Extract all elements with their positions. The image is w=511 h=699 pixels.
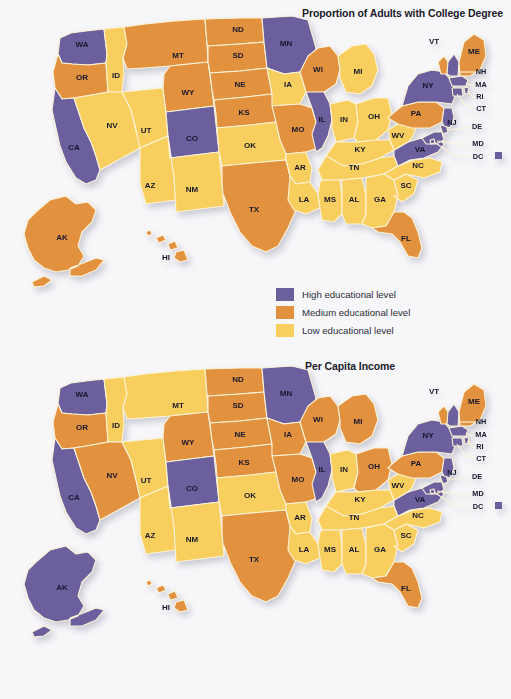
state-label-ca: CA (68, 143, 80, 152)
state-label-wi: WI (313, 415, 323, 424)
state-label-nv: NV (106, 471, 118, 480)
state-label-wy: WY (182, 438, 196, 447)
state-label-tx: TX (249, 555, 260, 564)
state-label-in: IN (340, 115, 348, 124)
state-shape-wy[interactable] (163, 412, 214, 462)
state-label-ct: CT (476, 454, 486, 463)
state-label-ma: MA (475, 430, 487, 439)
legend-swatch-medium (276, 306, 294, 319)
state-label-ok: OK (244, 491, 256, 500)
state-label-or: OR (76, 423, 88, 432)
state-label-oh: OH (368, 462, 380, 471)
state-label-ri: RI (476, 92, 483, 101)
us-choropleth-map-per-capita-income[interactable]: WAORCAIDNVUTAZMTWYCONMNDSDNEKSOKTXMNIAMO… (0, 350, 511, 699)
state-shape-dc[interactable] (430, 489, 435, 494)
state-shape-wy[interactable] (163, 62, 214, 112)
state-label-id: ID (112, 71, 120, 80)
state-shape-co[interactable] (166, 106, 219, 158)
state-label-wy: WY (182, 88, 196, 97)
us-choropleth-map-college-degree[interactable]: WAORCAIDNVUTAZMTWYCONMNDSDNEKSOKTXMNIAMO… (0, 0, 511, 349)
state-label-ks: KS (238, 458, 250, 467)
state-label-de: DE (472, 472, 482, 481)
state-shape-nh[interactable] (447, 54, 459, 76)
state-label-nc: NC (412, 511, 424, 520)
state-label-ct: CT (476, 104, 486, 113)
state-label-ga: GA (374, 195, 386, 204)
state-label-nj: NJ (447, 468, 456, 477)
legend-row-medium[interactable]: Medium educational level (276, 304, 410, 321)
state-label-tn: TN (349, 163, 360, 172)
state-label-mn: MN (280, 389, 293, 398)
state-shape-ma[interactable] (449, 76, 468, 86)
dc-swatch (495, 502, 502, 509)
state-label-az: AZ (145, 531, 156, 540)
state-label-ut: UT (141, 126, 152, 135)
state-shape-dc[interactable] (430, 139, 435, 144)
legend-swatch-low (276, 324, 294, 337)
state-label-co: CO (186, 484, 198, 493)
state-label-dc: DC (473, 152, 484, 161)
legend-label-medium: Medium educational level (302, 307, 410, 318)
state-label-ia: IA (284, 430, 292, 439)
state-label-il: IL (318, 465, 325, 474)
state-label-vt: VT (429, 37, 439, 46)
dc-swatch (495, 152, 502, 159)
legend-label-low: Low educational level (302, 325, 394, 336)
map-panel-college-degree: Proportion of Adults with College Degree… (0, 0, 511, 349)
state-label-oh: OH (368, 112, 380, 121)
state-label-wi: WI (313, 65, 323, 74)
state-label-pa: PA (411, 459, 422, 468)
state-label-mt: MT (172, 51, 184, 60)
state-label-ms: MS (324, 545, 337, 554)
state-label-va: VA (415, 145, 426, 154)
state-label-la: LA (299, 545, 310, 554)
state-label-nh: NH (476, 417, 487, 426)
state-label-fl: FL (401, 584, 411, 593)
state-label-md: MD (472, 139, 483, 148)
state-label-or: OR (76, 73, 88, 82)
state-label-md: MD (472, 489, 483, 498)
state-label-wa: WA (76, 390, 89, 399)
state-label-al: AL (349, 545, 360, 554)
state-shape-ma[interactable] (449, 426, 468, 436)
state-label-dc: DC (473, 502, 484, 511)
state-label-in: IN (340, 465, 348, 474)
state-label-mn: MN (280, 39, 293, 48)
state-label-me: ME (468, 47, 481, 56)
state-label-nd: ND (232, 375, 244, 384)
state-label-sd: SD (232, 51, 243, 60)
state-shape-co[interactable] (166, 456, 219, 508)
state-label-az: AZ (145, 181, 156, 190)
leader-line-ri (467, 441, 476, 448)
state-shape-nh[interactable] (447, 404, 459, 426)
state-label-ia: IA (284, 80, 292, 89)
state-label-hi: HI (162, 253, 170, 262)
state-label-id: ID (112, 421, 120, 430)
state-label-ar: AR (294, 513, 306, 522)
state-label-nh: NH (476, 67, 487, 76)
state-label-ky: KY (354, 495, 366, 504)
state-label-ma: MA (475, 80, 487, 89)
state-label-ky: KY (354, 145, 366, 154)
legend-swatch-high (276, 288, 294, 301)
state-label-nv: NV (106, 121, 118, 130)
state-label-ut: UT (141, 476, 152, 485)
state-label-al: AL (349, 195, 360, 204)
state-label-nm: NM (186, 535, 199, 544)
state-label-co: CO (186, 134, 198, 143)
state-label-de: DE (472, 122, 482, 131)
state-label-mi: MI (354, 67, 363, 76)
state-label-ne: NE (234, 80, 246, 89)
state-label-ms: MS (324, 195, 337, 204)
state-label-nd: ND (232, 25, 244, 34)
legend-college-degree: High educational level Medium educationa… (276, 286, 410, 340)
state-shape-mt[interactable] (123, 369, 208, 419)
state-label-mo: MO (292, 125, 305, 134)
state-label-ks: KS (238, 108, 250, 117)
legend-row-high[interactable]: High educational level (276, 286, 410, 303)
state-label-sc: SC (400, 181, 411, 190)
state-label-ak: AK (56, 583, 68, 592)
state-shape-mt[interactable] (123, 19, 208, 69)
legend-row-low[interactable]: Low educational level (276, 322, 410, 339)
state-label-nc: NC (412, 161, 424, 170)
